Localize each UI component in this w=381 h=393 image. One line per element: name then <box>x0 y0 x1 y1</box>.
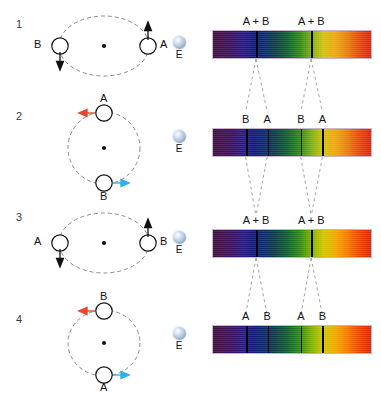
spectral-line-label-2d: A <box>319 113 326 125</box>
absorption-line-4c <box>301 326 303 353</box>
earth-sphere-icon <box>173 231 186 244</box>
star-label-a-2: A <box>100 92 107 104</box>
star-label-a-3: A <box>34 235 41 247</box>
absorption-line-4d <box>322 326 324 353</box>
row-number-4: 4 <box>16 313 22 325</box>
star-label-a-1: A <box>160 38 167 50</box>
spectral-line-label-2a: B <box>242 113 249 125</box>
earth-sphere-icon <box>173 36 186 49</box>
spectrum-strip-4 <box>212 325 372 354</box>
spectrum-block-2: B A B A <box>212 128 372 157</box>
earth-sphere-icon <box>173 130 186 143</box>
observer-label-2: E <box>169 144 189 154</box>
barycenter-dot-icon <box>102 341 106 345</box>
spectral-line-label-2b: A <box>264 113 271 125</box>
spectrum-block-4: A B A B <box>212 325 372 354</box>
orbit-svg-2 <box>56 102 152 194</box>
spectral-line-label-4c: A <box>297 310 304 322</box>
spectrum-block-1: A + B A + B <box>212 30 372 59</box>
spectral-line-label-3b: A + B <box>298 214 325 226</box>
barycenter-dot-icon <box>102 44 106 48</box>
absorption-line-2d <box>322 129 324 156</box>
star-b-circle-icon <box>140 235 156 251</box>
spectrum-strip-3 <box>212 229 372 258</box>
absorption-line-4a <box>246 326 248 353</box>
velocity-arrow-a-down-icon <box>57 249 64 267</box>
row-number-3: 3 <box>16 211 22 223</box>
orbit-svg-1 <box>44 8 164 84</box>
star-b-circle-icon <box>96 175 112 191</box>
star-label-b-1: B <box>34 38 41 50</box>
velocity-arrow-b-right-blueshift-icon <box>113 180 129 187</box>
absorption-line-4b <box>268 326 270 353</box>
absorption-line-1a <box>256 31 258 58</box>
observer-marker-2: E <box>169 130 189 154</box>
velocity-arrow-b-down-icon <box>57 52 64 70</box>
orbit-diagram-1: B A <box>44 8 164 84</box>
spectral-line-label-1a: A + B <box>243 15 270 27</box>
spectral-line-label-4a: A <box>242 310 249 322</box>
barycenter-dot-icon <box>102 146 106 150</box>
absorption-line-2c <box>301 129 303 156</box>
row-number-1: 1 <box>16 18 22 30</box>
velocity-arrow-a-up-icon <box>145 22 152 40</box>
velocity-arrow-b-up-icon <box>145 219 152 237</box>
orbit-svg-3 <box>44 205 164 281</box>
velocity-arrow-b-left-redshift-icon <box>79 308 95 315</box>
velocity-arrow-a-left-redshift-icon <box>79 110 95 117</box>
absorption-line-2a <box>246 129 248 156</box>
velocity-arrow-a-right-blueshift-icon <box>113 372 129 379</box>
absorption-line-3b <box>311 230 313 257</box>
star-a-circle-icon <box>96 105 112 121</box>
spectrum-strip-1 <box>212 30 372 59</box>
orbit-diagram-3: A B <box>44 205 164 281</box>
observer-marker-4: E <box>169 327 189 351</box>
observer-marker-1: E <box>169 36 189 60</box>
star-label-b-4: B <box>100 290 107 302</box>
spectrum-strip-2 <box>212 128 372 157</box>
star-label-a-4: A <box>100 381 107 393</box>
spectral-line-label-4d: B <box>319 310 326 322</box>
star-a-circle-icon <box>140 38 156 54</box>
spectral-line-label-1b: A + B <box>298 15 325 27</box>
observer-marker-3: E <box>169 231 189 255</box>
absorption-line-2b <box>268 129 270 156</box>
star-b-circle-icon <box>96 303 112 319</box>
orbit-svg-4 <box>56 301 152 385</box>
orbit-diagram-4: B A <box>56 301 152 385</box>
observer-label-4: E <box>169 341 189 351</box>
spectral-line-label-2c: B <box>297 113 304 125</box>
diagram-row-4: 4 B A E A <box>0 295 381 385</box>
barycenter-dot-icon <box>102 241 106 245</box>
spectral-line-label-4b: B <box>264 310 271 322</box>
observer-label-3: E <box>169 245 189 255</box>
spectral-line-label-3a: A + B <box>243 214 270 226</box>
star-a-circle-icon <box>52 235 68 251</box>
star-b-circle-icon <box>52 38 68 54</box>
earth-sphere-icon <box>173 327 186 340</box>
row-number-2: 2 <box>16 110 22 122</box>
observer-label-1: E <box>169 50 189 60</box>
spectrum-block-3: A + B A + B <box>212 229 372 258</box>
absorption-line-1b <box>311 31 313 58</box>
orbit-diagram-2: A B <box>56 102 152 194</box>
absorption-line-3a <box>256 230 258 257</box>
star-label-b-3: B <box>160 235 167 247</box>
